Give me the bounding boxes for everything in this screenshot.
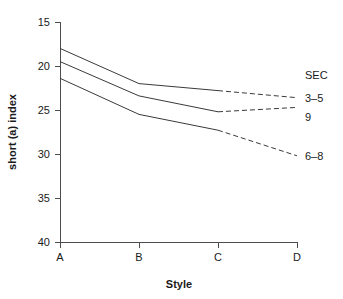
line-chart: 15 20 25 30 35 40 A B C D Style short (a… xyxy=(0,0,343,299)
y-axis-title: short (a) index xyxy=(6,93,18,170)
x-tick-label-c: C xyxy=(214,251,222,263)
y-tick-label-20: 20 xyxy=(38,60,50,72)
legend-title: SEC xyxy=(305,69,328,81)
x-tick-label-b: B xyxy=(135,251,142,263)
y-tick-label-35: 35 xyxy=(38,192,50,204)
legend-entry-6-8: 6–8 xyxy=(305,150,323,162)
series-line-3-5-solid xyxy=(60,48,218,90)
series-line-3-5-dashed xyxy=(218,91,297,98)
series-line-9-dashed xyxy=(218,107,297,111)
y-tick-label-25: 25 xyxy=(38,104,50,116)
chart-canvas: 15 20 25 30 35 40 A B C D Style short (a… xyxy=(0,0,343,299)
x-axis-title: Style xyxy=(166,278,192,290)
legend-entry-9: 9 xyxy=(305,111,311,123)
legend-entry-3-5: 3–5 xyxy=(305,92,323,104)
series-line-9-solid xyxy=(60,62,218,112)
x-tick-label-d: D xyxy=(293,251,301,263)
y-tick-label-30: 30 xyxy=(38,148,50,160)
y-tick-label-40: 40 xyxy=(38,236,50,248)
x-tick-label-a: A xyxy=(56,251,64,263)
series-line-6-8-dashed xyxy=(218,130,297,156)
series-line-6-8-solid xyxy=(60,78,218,130)
y-tick-label-15: 15 xyxy=(38,16,50,28)
